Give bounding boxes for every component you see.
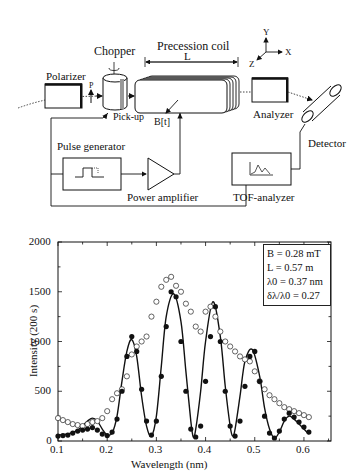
- filled-data-point: [232, 433, 237, 438]
- x-axis-label: Wavelength (nm): [131, 458, 207, 470]
- open-data-point: [247, 359, 252, 364]
- filled-data-point: [178, 339, 183, 344]
- filled-data-point: [173, 294, 178, 299]
- filled-data-point: [252, 349, 257, 354]
- filled-data-point: [306, 429, 311, 434]
- filled-data-point: [223, 389, 228, 394]
- filled-data-point: [139, 387, 144, 392]
- open-data-point: [70, 421, 75, 426]
- open-data-point: [65, 419, 70, 424]
- x-tick-label: 0.1: [50, 443, 64, 455]
- annotation-line-spread: δλ/λ0 = 0.27: [267, 289, 327, 303]
- open-data-point: [173, 283, 178, 288]
- filled-data-point: [110, 429, 115, 434]
- open-data-point: [85, 421, 90, 426]
- open-data-point: [242, 357, 247, 362]
- filled-data-point: [124, 354, 129, 359]
- filled-data-point: [292, 415, 297, 420]
- filled-data-point: [247, 354, 252, 359]
- filled-data-point: [114, 417, 119, 422]
- open-data-point: [183, 301, 188, 306]
- open-data-point: [237, 354, 242, 359]
- open-data-point: [154, 299, 159, 304]
- open-data-point: [110, 397, 115, 402]
- filled-data-point: [144, 419, 149, 424]
- filled-data-point: [100, 431, 105, 436]
- fit-curve: [58, 294, 309, 438]
- open-data-point: [203, 309, 208, 314]
- annotation-line-field: B = 0.28 mT: [267, 247, 327, 261]
- open-data-point: [114, 391, 119, 396]
- filled-data-point: [301, 424, 306, 429]
- open-data-point: [164, 277, 169, 282]
- filled-data-point: [267, 430, 272, 435]
- filled-data-point: [95, 427, 100, 432]
- open-data-point: [188, 309, 193, 314]
- open-data-point: [95, 419, 100, 424]
- open-data-point: [134, 344, 139, 349]
- y-axis-label: Intensity (200 s): [27, 286, 39, 396]
- filled-data-point: [105, 433, 110, 438]
- open-data-point: [292, 409, 297, 414]
- open-data-point: [218, 329, 223, 334]
- filled-data-point: [183, 389, 188, 394]
- open-data-point: [228, 344, 233, 349]
- open-data-point: [90, 419, 95, 424]
- open-data-point: [105, 409, 110, 414]
- open-data-point: [75, 422, 80, 427]
- open-data-point: [208, 304, 213, 309]
- x-tick-label: 0.2: [99, 443, 113, 455]
- filled-data-point: [188, 426, 193, 431]
- annotation-line-length: L = 0.57 m: [267, 261, 327, 275]
- open-data-point: [213, 314, 218, 319]
- open-data-point: [272, 397, 277, 402]
- x-tick-label: 0.3: [148, 443, 162, 455]
- open-data-point: [169, 274, 174, 279]
- open-data-point: [124, 374, 129, 379]
- open-data-point: [262, 387, 267, 392]
- filled-data-point: [169, 289, 174, 294]
- filled-data-point: [262, 414, 267, 419]
- filled-data-point: [149, 432, 154, 437]
- filled-data-point: [80, 427, 85, 432]
- open-data-point: [144, 334, 149, 339]
- open-data-point: [193, 324, 198, 329]
- annotation-line-lambda: λ0 = 0.37 nm: [267, 275, 327, 289]
- filled-data-point: [198, 423, 203, 428]
- open-data-point: [232, 349, 237, 354]
- open-data-point: [129, 352, 134, 357]
- open-data-point: [306, 415, 311, 420]
- filled-data-point: [237, 419, 242, 424]
- open-data-point: [223, 339, 228, 344]
- y-tick-label: 2000: [29, 235, 51, 247]
- filled-data-point: [134, 349, 139, 354]
- parameter-annotation: B = 0.28 mT L = 0.57 m λ0 = 0.37 nm δλ/λ…: [263, 244, 331, 306]
- filled-data-point: [129, 334, 134, 339]
- open-data-point: [301, 413, 306, 418]
- filled-data-point: [213, 304, 218, 309]
- open-data-point: [277, 401, 282, 406]
- filled-data-point: [203, 379, 208, 384]
- open-data-point: [159, 284, 164, 289]
- filled-data-point: [287, 411, 292, 416]
- open-data-point: [149, 314, 154, 319]
- filled-data-point: [85, 426, 90, 431]
- intensity-chart: [0, 0, 356, 473]
- open-data-point: [252, 369, 257, 374]
- x-tick-label: 0.5: [247, 443, 261, 455]
- filled-data-point: [277, 428, 282, 433]
- filled-data-point: [228, 423, 233, 428]
- filled-data-point: [218, 339, 223, 344]
- filled-data-point: [164, 324, 169, 329]
- open-data-point: [282, 405, 287, 410]
- filled-data-point: [154, 419, 159, 424]
- filled-data-point: [70, 430, 75, 435]
- x-tick-label: 0.6: [296, 443, 310, 455]
- filled-data-point: [119, 389, 124, 394]
- open-data-point: [60, 418, 65, 423]
- filled-data-point: [65, 432, 70, 437]
- filled-data-point: [193, 434, 198, 439]
- filled-data-point: [90, 425, 95, 430]
- filled-data-point: [159, 374, 164, 379]
- open-data-point: [55, 416, 60, 421]
